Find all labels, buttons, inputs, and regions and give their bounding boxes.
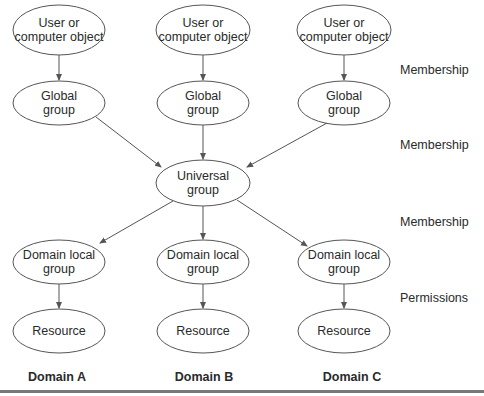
domain-local-group-label-a: Domain local group <box>23 248 95 276</box>
resource-label-b: Resource <box>176 324 230 338</box>
global-group-label-line1: Global <box>185 89 221 103</box>
user-object-label-line1: User or <box>159 16 248 30</box>
permissions-label: Permissions <box>400 291 468 305</box>
domain-local-group-label-b: Domain local group <box>167 248 239 276</box>
membership-label-1: Membership <box>400 63 469 77</box>
domain-local-label-line1: Domain local <box>308 248 380 262</box>
arrow-global-a-to-universal <box>96 117 161 167</box>
domain-label-b: Domain B <box>175 370 233 384</box>
global-group-label-c: Global group <box>326 89 362 117</box>
universal-label-line1: Universal <box>177 169 229 183</box>
domain-label-c: Domain C <box>323 370 381 384</box>
universal-group-label: Universal group <box>177 169 229 197</box>
user-object-label-line2: computer object <box>15 30 104 44</box>
user-object-label-line2: computer object <box>159 30 248 44</box>
global-group-label-line2: group <box>326 103 362 117</box>
user-object-label-b: User or computer object <box>159 16 248 44</box>
bottom-divider <box>0 390 484 393</box>
membership-label-3: Membership <box>400 215 469 229</box>
resource-label-c: Resource <box>317 324 371 338</box>
user-object-label-line2: computer object <box>300 30 389 44</box>
user-object-label-line1: User or <box>300 16 389 30</box>
domain-local-label-line2: group <box>167 262 239 276</box>
global-group-label-line1: Global <box>326 89 362 103</box>
membership-label-2: Membership <box>400 138 469 152</box>
universal-label-line2: group <box>177 183 229 197</box>
domain-local-label-line1: Domain local <box>167 248 239 262</box>
domain-local-label-line1: Domain local <box>23 248 95 262</box>
global-group-label-line2: group <box>41 103 77 117</box>
domain-local-label-line2: group <box>308 262 380 276</box>
user-object-label-c: User or computer object <box>300 16 389 44</box>
global-group-label-a: Global group <box>41 89 77 117</box>
user-object-label-a: User or computer object <box>15 16 104 44</box>
arrow-global-c-to-universal <box>247 123 327 167</box>
user-object-label-line1: User or <box>15 16 104 30</box>
global-group-label-line1: Global <box>41 89 77 103</box>
global-group-label-b: Global group <box>185 89 221 117</box>
domain-label-a: Domain A <box>28 370 86 384</box>
arrow-universal-to-domain-local-a <box>100 201 173 243</box>
resource-label-a: Resource <box>32 324 86 338</box>
domain-local-label-line2: group <box>23 262 95 276</box>
domain-local-group-label-c: Domain local group <box>308 248 380 276</box>
arrow-universal-to-domain-local-c <box>237 200 307 246</box>
global-group-label-line2: group <box>185 103 221 117</box>
